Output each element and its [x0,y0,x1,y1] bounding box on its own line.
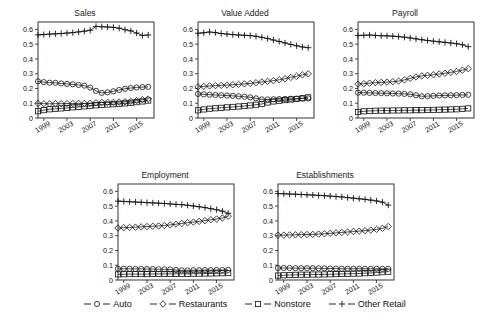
svg-text:2015: 2015 [126,119,144,135]
svg-text:2003: 2003 [57,119,75,135]
svg-text:2011: 2011 [183,281,201,297]
svg-text:0.5: 0.5 [23,40,33,49]
svg-text:2003: 2003 [137,281,155,297]
svg-text:0: 0 [269,276,273,285]
svg-text:2007: 2007 [80,119,98,135]
legend-item-nonstore[interactable]: Nonstore [245,298,311,310]
svg-text:0.3: 0.3 [343,69,353,78]
series-nonstore [355,106,470,115]
series-restaurants [275,223,392,238]
series-other-retail [275,191,391,209]
square-icon [245,298,271,310]
svg-text:0.2: 0.2 [103,246,113,255]
svg-text:0.3: 0.3 [103,231,113,240]
svg-text:2011: 2011 [423,119,441,135]
panel-value-added: Value Added00.10.20.30.40.50.61999200320… [168,8,322,144]
svg-text:2015: 2015 [446,119,464,135]
svg-text:0.6: 0.6 [103,187,113,196]
svg-text:0.4: 0.4 [343,55,353,64]
diamond-icon [150,298,176,310]
svg-text:0.3: 0.3 [23,69,33,78]
svg-text:0.6: 0.6 [343,25,353,34]
series-other-retail [35,23,151,38]
svg-text:0.2: 0.2 [23,84,33,93]
panel-establishments: Establishments00.10.20.30.40.50.61999200… [248,170,402,306]
svg-text:0.2: 0.2 [343,84,353,93]
svg-text:0.2: 0.2 [263,246,273,255]
plus-icon [329,298,355,310]
series-auto [355,90,470,99]
series-nonstore [35,98,150,114]
svg-text:0: 0 [189,114,193,123]
legend-item-restaurants[interactable]: Restaurants [150,298,228,310]
svg-text:0: 0 [29,114,33,123]
svg-text:0.3: 0.3 [183,69,193,78]
svg-text:2007: 2007 [320,281,338,297]
legend-label: Auto [113,299,132,309]
series-nonstore [115,270,230,277]
svg-text:0.2: 0.2 [183,84,193,93]
svg-text:0.6: 0.6 [23,25,33,34]
panel-employment: Employment00.10.20.30.40.50.619992003200… [88,170,242,306]
svg-text:2007: 2007 [240,119,258,135]
svg-text:2007: 2007 [400,119,418,135]
svg-text:0.1: 0.1 [263,261,273,270]
series-restaurants [355,65,472,87]
panel-payroll: Payroll00.10.20.30.40.50.619992003200720… [328,8,482,144]
svg-text:1999: 1999 [193,119,211,135]
svg-text:2011: 2011 [263,119,281,135]
plot-area: 00.10.20.30.40.50.619992003200720112015 [88,170,242,306]
svg-text:0: 0 [349,114,353,123]
svg-text:0.1: 0.1 [343,99,353,108]
chart-legend: AutoRestaurantsNonstoreOther Retail [0,298,490,310]
svg-text:0: 0 [109,276,113,285]
svg-text:0.6: 0.6 [183,25,193,34]
svg-text:1999: 1999 [353,119,371,135]
svg-text:0.1: 0.1 [23,99,33,108]
plot-area: 00.10.20.30.40.50.619992003200720112015 [168,8,322,144]
svg-text:0.1: 0.1 [103,261,113,270]
svg-text:0.5: 0.5 [183,40,193,49]
svg-text:1999: 1999 [33,119,51,135]
series-restaurants [115,213,232,231]
svg-text:1999: 1999 [273,281,291,297]
plot-area: 00.10.20.30.40.50.619992003200720112015 [8,8,162,144]
panel-sales: Sales00.10.20.30.40.50.61999200320072011… [8,8,162,144]
svg-text:1999: 1999 [113,281,131,297]
svg-text:0.6: 0.6 [263,187,273,196]
svg-text:2015: 2015 [206,281,224,297]
legend-label: Restaurants [179,299,228,309]
svg-text:2007: 2007 [160,281,178,297]
series-other-retail [115,198,231,216]
svg-text:0.4: 0.4 [103,217,113,226]
svg-text:0.4: 0.4 [263,217,273,226]
legend-label: Nonstore [274,299,311,309]
series-auto [35,79,150,96]
svg-text:2015: 2015 [286,119,304,135]
series-other-retail [355,32,471,50]
svg-text:0.4: 0.4 [183,55,193,64]
svg-text:2015: 2015 [366,281,384,297]
legend-label: Other Retail [358,299,406,309]
svg-text:0.5: 0.5 [343,40,353,49]
plot-area: 00.10.20.30.40.50.619992003200720112015 [328,8,482,144]
svg-text:2011: 2011 [343,281,361,297]
plot-area: 00.10.20.30.40.50.619992003200720112015 [248,170,402,306]
svg-text:0.1: 0.1 [183,99,193,108]
svg-text:2011: 2011 [103,119,121,135]
svg-text:0.4: 0.4 [23,55,33,64]
svg-text:2003: 2003 [377,119,395,135]
retail-share-small-multiples-figure: Sales00.10.20.30.40.50.61999200320072011… [0,0,490,322]
circle-icon [84,298,110,310]
svg-text:2003: 2003 [217,119,235,135]
legend-item-other-retail[interactable]: Other Retail [329,298,406,310]
svg-text:0.5: 0.5 [263,202,273,211]
legend-item-auto[interactable]: Auto [84,298,132,310]
svg-text:0.3: 0.3 [263,231,273,240]
series-nonstore [275,269,390,278]
svg-text:2003: 2003 [297,281,315,297]
svg-text:0.5: 0.5 [103,202,113,211]
series-other-retail [195,29,311,51]
series-restaurants [195,71,312,90]
